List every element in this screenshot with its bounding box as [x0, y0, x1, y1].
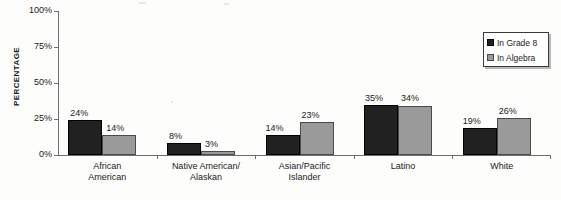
bar: [398, 106, 432, 155]
bar-group: [68, 11, 136, 155]
legend-item-in-grade-8: In Grade 8: [487, 35, 548, 50]
bar-value-label: 23%: [302, 111, 320, 120]
bar: [463, 128, 497, 155]
y-axis-tick-label: 75%: [12, 42, 52, 51]
bar: [497, 118, 531, 155]
bar: [68, 120, 102, 155]
grouped-bar-chart: PERCENTAGE 0%25%50%75%100% 24%14%8%3%14%…: [0, 0, 561, 200]
x-axis-tick: [452, 155, 453, 159]
y-axis-tick: [54, 11, 58, 12]
bar: [266, 135, 300, 155]
bar-group: [266, 11, 334, 155]
legend-item-in-algebra: In Algebra: [487, 50, 548, 65]
x-axis-category-label: White: [440, 161, 561, 172]
bar: [102, 135, 136, 155]
bar-value-label: 19%: [463, 117, 481, 126]
bar-value-label: 14%: [106, 124, 124, 133]
black-square-icon: [487, 39, 494, 46]
y-axis-line: [58, 11, 59, 155]
bar-value-label: 14%: [266, 124, 284, 133]
plot-area: 0%25%50%75%100% 24%14%8%3%14%23%35%34%19…: [58, 11, 551, 155]
x-axis-tick: [255, 155, 256, 159]
legend-label: In Algebra: [497, 53, 535, 63]
bar-group: [364, 11, 432, 155]
scan-artifact: [224, 3, 229, 5]
x-axis-line: [58, 155, 551, 156]
legend-label: In Grade 8: [497, 38, 537, 48]
y-axis-tick-label: 50%: [12, 78, 52, 87]
category-label-line: White: [440, 161, 561, 172]
bar-value-label: 35%: [365, 94, 383, 103]
x-axis-tick: [550, 155, 551, 159]
gray-square-icon: [487, 54, 494, 61]
chart-legend: In Grade 8 In Algebra: [483, 32, 549, 67]
x-axis-tick: [157, 155, 158, 159]
bar: [364, 105, 398, 155]
y-axis-tick: [54, 83, 58, 84]
category-label-line: Islander: [243, 172, 366, 183]
bar: [201, 151, 235, 155]
y-axis-tick: [54, 119, 58, 120]
bar-value-label: 8%: [169, 132, 182, 141]
scan-artifact: [139, 2, 146, 4]
bar-value-label: 3%: [205, 140, 218, 149]
bar-value-label: 34%: [401, 94, 419, 103]
y-axis-tick-label: 0%: [12, 150, 52, 159]
bar: [167, 143, 201, 155]
y-axis-tick-label: 25%: [12, 114, 52, 123]
y-axis-tick: [54, 47, 58, 48]
x-axis-tick: [354, 155, 355, 159]
bar: [300, 122, 334, 155]
bar-value-label: 24%: [70, 109, 88, 118]
bar-value-label: 26%: [499, 107, 517, 116]
y-axis-tick-label: 100%: [12, 6, 52, 15]
y-axis-tick: [54, 155, 58, 156]
